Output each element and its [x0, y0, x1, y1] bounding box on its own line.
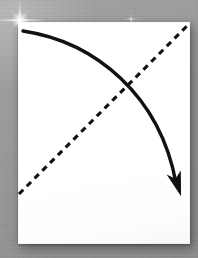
- scene-root: [0, 0, 198, 258]
- dashed-diagonal-line: [19, 25, 188, 194]
- curved-arrow-shaft: [23, 31, 176, 183]
- annotation-layer: [0, 0, 198, 258]
